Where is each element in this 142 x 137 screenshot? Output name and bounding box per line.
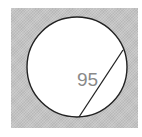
circle-diagram: 95: [0, 0, 142, 137]
angle-label: 95: [77, 69, 98, 90]
